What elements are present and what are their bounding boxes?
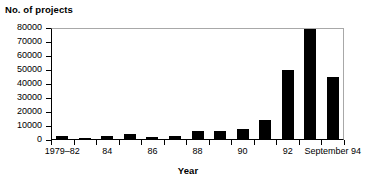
y-axis-tick-label: 50000	[17, 64, 42, 75]
y-axis-tick-mark	[46, 126, 51, 127]
y-axis-tick-label: 80000	[17, 22, 42, 33]
x-axis-tick-mark	[96, 140, 97, 145]
y-axis-tick-label: 40000	[17, 78, 42, 89]
y-axis-tick-label: 30000	[17, 92, 42, 103]
bar	[79, 138, 91, 139]
x-axis-tick-label: 90	[238, 146, 248, 157]
x-axis-tick-mark	[164, 140, 165, 145]
x-axis-tick-mark	[74, 140, 75, 145]
x-axis-tick-label: 86	[147, 146, 157, 157]
y-axis-tick-mark	[46, 84, 51, 85]
bar	[146, 137, 158, 139]
bar	[304, 29, 316, 139]
x-axis-tick-label: 88	[192, 146, 202, 157]
y-axis-tick-mark	[46, 70, 51, 71]
x-axis-tick-mark	[51, 140, 52, 145]
x-axis-tick-mark	[141, 140, 142, 145]
y-axis-tick-mark	[46, 56, 51, 57]
x-axis-tick-mark	[254, 140, 255, 145]
x-axis-tick-mark	[209, 140, 210, 145]
x-axis-tick-mark	[186, 140, 187, 145]
x-axis-tick-label: 92	[283, 146, 293, 157]
bar	[237, 129, 249, 139]
y-axis-tick-mark	[46, 98, 51, 99]
bar	[101, 136, 113, 139]
x-axis-tick-mark	[344, 140, 345, 145]
x-axis-tick-mark	[299, 140, 300, 145]
bar	[124, 134, 136, 139]
bar	[169, 136, 181, 139]
x-axis-tick-mark	[119, 140, 120, 145]
y-axis-title: No. of projects	[5, 4, 73, 15]
y-axis-tick-label: 0	[37, 134, 42, 145]
bar	[192, 131, 204, 139]
bar	[214, 131, 226, 139]
x-axis-tick-mark	[276, 140, 277, 145]
bar	[327, 77, 339, 139]
y-axis-tick-mark	[46, 112, 51, 113]
bar	[259, 120, 271, 139]
y-axis-tick-label: 60000	[17, 50, 42, 61]
y-axis-tick-label: 70000	[17, 36, 42, 47]
bars-layer	[52, 28, 344, 139]
y-axis-tick-label: 20000	[17, 106, 42, 117]
y-axis-tick-mark	[46, 28, 51, 29]
x-axis-tick-label: 1979–82	[45, 146, 80, 157]
x-axis-tick-label: 84	[102, 146, 112, 157]
x-axis-tick-mark	[321, 140, 322, 145]
x-axis-tick-label: September 94	[304, 146, 361, 157]
x-axis-tick-mark	[231, 140, 232, 145]
y-axis-tick-label: 10000	[17, 120, 42, 131]
y-axis-tick-mark	[46, 42, 51, 43]
bar	[56, 136, 68, 139]
bar-chart-figure: No. of projects 800007000060000500004000…	[0, 0, 376, 188]
x-axis-title: Year	[0, 165, 376, 176]
bar	[282, 70, 294, 139]
